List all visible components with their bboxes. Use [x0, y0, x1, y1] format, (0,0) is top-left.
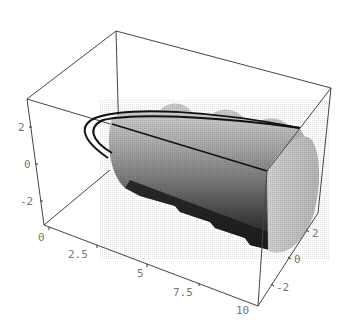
x-tick-label: 2.5: [68, 248, 88, 261]
z-tick-label: 0: [24, 158, 31, 171]
z-tick-label: -2: [20, 195, 33, 208]
x-tick-label: 5: [137, 267, 144, 280]
z-axis: 2 0 -2: [18, 121, 43, 208]
x-tick-label: 0: [38, 231, 45, 244]
surface-body: [100, 100, 330, 260]
z-tick-label: 2: [18, 121, 25, 134]
y-tick-label: 0: [294, 253, 301, 266]
x-tick-label: 7.5: [173, 286, 193, 299]
x-tick-label: 10: [236, 304, 249, 317]
y-tick-label: 2: [312, 227, 319, 240]
y-tick-label: -2: [276, 281, 289, 294]
3d-plot: 2 0 -2 0 2.5 5 7.5 10 2 0 -2: [0, 0, 344, 335]
